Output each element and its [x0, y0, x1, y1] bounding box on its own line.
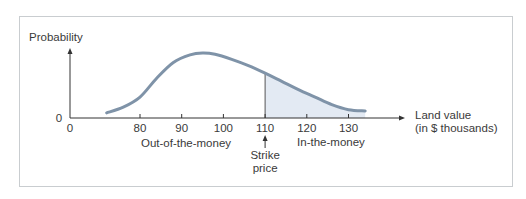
x-tick-label-100: 100 — [214, 122, 233, 134]
x-tick-label-110: 110 — [256, 122, 274, 134]
probability-curve — [107, 53, 366, 113]
x-tick-label-130: 130 — [339, 122, 358, 134]
x-axis-label-line-2: (in $ thousands) — [415, 122, 498, 134]
x-axis-arrow-icon — [399, 116, 405, 121]
strike-label-line-2: price — [253, 162, 278, 174]
in-the-money-label: In-the-money — [297, 136, 365, 148]
y-axis-arrow-icon — [68, 48, 73, 54]
x-tick-label-80: 80 — [134, 122, 147, 134]
strike-label-line-1: Strike — [250, 149, 279, 161]
strike-price-arrow-icon — [263, 135, 268, 141]
out-of-the-money-label: Out-of-the-money — [141, 137, 231, 149]
x-axis-label-line-1: Land value — [415, 109, 471, 121]
y-origin-label: 0 — [56, 112, 62, 124]
x-tick-label-90: 90 — [175, 122, 188, 134]
y-axis-label: Probability — [29, 31, 83, 43]
x-origin-label: 0 — [67, 122, 73, 134]
chart: 8090100110120130 Probability 0 0 Land va… — [0, 0, 526, 199]
x-tick-label-120: 120 — [297, 122, 316, 134]
